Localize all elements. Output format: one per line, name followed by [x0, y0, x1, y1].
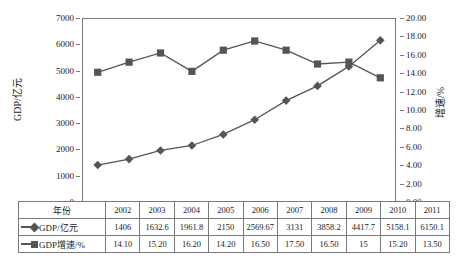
- right-tick-label: 2.00: [406, 179, 446, 188]
- left-tick-mark: [76, 149, 80, 150]
- row-header: GDP/亿元: [19, 219, 106, 236]
- table-row: 年份20022003200420052006200720082009201020…: [19, 202, 450, 219]
- table-cell: 2002: [106, 202, 140, 219]
- left-tick-label: 2000: [0, 145, 74, 154]
- right-tick-mark: [400, 128, 404, 129]
- left-tick-mark: [76, 123, 80, 124]
- plot-area: [82, 18, 396, 202]
- table-cell: 14.10: [106, 236, 140, 253]
- legend-label: GDP增速/%: [39, 238, 85, 251]
- table-cell: 2005: [209, 202, 243, 219]
- series-growth: [94, 37, 384, 81]
- right-tick-mark: [400, 55, 404, 56]
- right-tick-mark: [400, 110, 404, 111]
- left-tick-mark: [76, 44, 80, 45]
- table-cell: 2011: [415, 202, 449, 219]
- row-header: 年份: [19, 202, 106, 219]
- marker-square: [345, 59, 352, 66]
- right-tick-mark: [400, 165, 404, 166]
- marker-diamond: [125, 155, 134, 164]
- left-axis-title: GDP/亿元: [9, 60, 24, 140]
- right-tick-mark: [400, 92, 404, 93]
- table-cell: 2007: [277, 202, 311, 219]
- table-cell: 2009: [346, 202, 380, 219]
- table-cell: 2006: [243, 202, 277, 219]
- legend-key: GDP/亿元: [21, 221, 104, 234]
- legend-label: GDP/亿元: [39, 221, 78, 234]
- marker-square: [94, 69, 101, 76]
- marker-diamond: [250, 115, 259, 124]
- marker-square: [314, 60, 321, 67]
- table-cell: 15: [346, 236, 380, 253]
- table-row: GDP/亿元14061632.61961.821502569.673131385…: [19, 219, 450, 236]
- right-tick-label: 16.00: [406, 50, 446, 59]
- series-gdp: [93, 36, 384, 169]
- left-tick-mark: [76, 176, 80, 177]
- data-table-wrap: 年份20022003200420052006200720082009201020…: [18, 201, 406, 253]
- table-cell: 3858.2: [312, 219, 346, 236]
- left-tick-label: 6000: [0, 40, 74, 49]
- left-tick-label: 7000: [0, 14, 74, 23]
- data-table: 年份20022003200420052006200720082009201020…: [18, 201, 450, 253]
- right-tick-mark: [400, 147, 404, 148]
- table-cell: 6150.1: [415, 219, 449, 236]
- table-cell: 15.20: [381, 236, 415, 253]
- right-tick-label: 20.00: [406, 14, 446, 23]
- marker-diamond: [188, 141, 197, 150]
- table-cell: 2569.67: [243, 219, 277, 236]
- table-cell: 15.20: [140, 236, 174, 253]
- marker-square: [188, 68, 195, 75]
- legend-key: GDP增速/%: [21, 238, 104, 251]
- table-cell: 1632.6: [140, 219, 174, 236]
- right-tick-mark: [400, 18, 404, 19]
- marker-diamond: [156, 146, 165, 155]
- marker-diamond: [219, 130, 228, 139]
- table-cell: 3131: [277, 219, 311, 236]
- marker-diamond: [93, 161, 102, 170]
- table-cell: 2008: [312, 202, 346, 219]
- series-line: [98, 41, 381, 78]
- chart-figure: 01000200030004000500060007000 GDP/亿元 0.0…: [0, 0, 471, 275]
- right-tick-label: 18.00: [406, 32, 446, 41]
- left-tick-mark: [76, 97, 80, 98]
- table-cell: 4417.7: [346, 219, 380, 236]
- marker-square: [126, 59, 133, 66]
- left-tick-label: 1000: [0, 171, 74, 180]
- table-cell: 1406: [106, 219, 140, 236]
- marker-square: [251, 37, 258, 44]
- table-cell: 1961.8: [174, 219, 208, 236]
- table-cell: 5158.1: [381, 219, 415, 236]
- right-tick-mark: [400, 36, 404, 37]
- table-cell: 16.50: [243, 236, 277, 253]
- table-cell: 16.50: [312, 236, 346, 253]
- marker-square: [220, 47, 227, 54]
- marker-diamond: [282, 96, 291, 105]
- table-cell: 13.50: [415, 236, 449, 253]
- table-cell: 17.50: [277, 236, 311, 253]
- right-tick-label: 6.00: [406, 142, 446, 151]
- table-cell: 2004: [174, 202, 208, 219]
- right-axis-title: 增速/%: [432, 68, 447, 138]
- right-tick-mark: [400, 184, 404, 185]
- row-header: GDP增速/%: [19, 236, 106, 253]
- right-tick-label: 4.00: [406, 161, 446, 170]
- table-cell: 14.20: [209, 236, 243, 253]
- diamond-icon: [30, 222, 40, 232]
- table-cell: 16.20: [174, 236, 208, 253]
- table-cell: 2150: [209, 219, 243, 236]
- right-tick-mark: [400, 73, 404, 74]
- square-icon: [31, 241, 38, 248]
- series-layer: [82, 18, 396, 202]
- table-row: GDP增速/%14.1015.2016.2014.2016.5017.5016.…: [19, 236, 450, 253]
- left-tick-mark: [76, 71, 80, 72]
- table-cell: 2003: [140, 202, 174, 219]
- marker-square: [377, 74, 384, 81]
- left-tick-mark: [76, 18, 80, 19]
- table-cell: 2010: [381, 202, 415, 219]
- marker-diamond: [313, 82, 322, 91]
- marker-square: [157, 49, 164, 56]
- marker-square: [283, 47, 290, 54]
